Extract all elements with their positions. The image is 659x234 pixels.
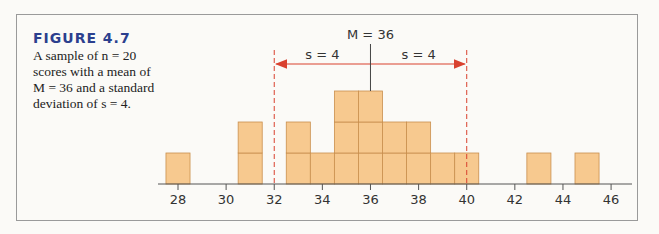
histogram-box [334, 91, 358, 122]
x-tick-label: 34 [314, 192, 331, 207]
histogram-box [407, 122, 431, 153]
histogram-box [431, 153, 455, 184]
histogram-box [334, 153, 358, 184]
x-tick-label: 46 [603, 192, 620, 207]
histogram-chart: 28303234363840424446 M = 36 s = 4 s = 4 [0, 0, 659, 234]
histogram-box [358, 91, 382, 122]
histogram-box [407, 153, 431, 184]
histogram-box [383, 122, 407, 153]
x-tick-label: 38 [410, 192, 427, 207]
x-tick-label: 30 [218, 192, 235, 207]
mean-label: M = 36 [347, 27, 394, 42]
histogram-box [575, 153, 599, 184]
x-tick-label: 32 [266, 192, 283, 207]
x-tick-label: 44 [555, 192, 572, 207]
histogram-box [358, 153, 382, 184]
x-axis: 28303234363840424446 [158, 184, 632, 207]
sd-left-label: s = 4 [305, 47, 339, 62]
histogram-box [527, 153, 551, 184]
sd-right-label: s = 4 [401, 47, 435, 62]
histogram-box [358, 122, 382, 153]
histogram-boxes [166, 91, 599, 184]
histogram-box [383, 153, 407, 184]
histogram-box [334, 122, 358, 153]
x-tick-label: 42 [507, 192, 524, 207]
histogram-box [166, 153, 190, 184]
histogram-box [286, 122, 310, 153]
x-tick-label: 36 [362, 192, 379, 207]
x-tick-label: 40 [458, 192, 475, 207]
histogram-box [238, 153, 262, 184]
x-tick-label: 28 [170, 192, 187, 207]
histogram-box [238, 122, 262, 153]
histogram-box [310, 153, 334, 184]
histogram-box [286, 153, 310, 184]
